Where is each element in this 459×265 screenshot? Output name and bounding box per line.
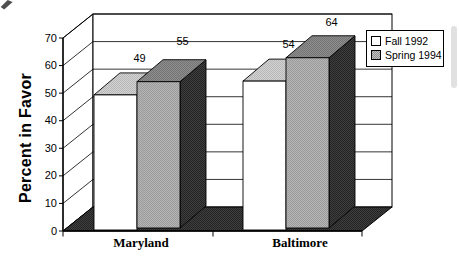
y-axis-title: Percent in Favor [17,48,39,228]
data-label-bar-spring-1994-maryland: 55 [176,35,188,47]
data-label-bar-fall-1992-maryland: 49 [133,52,145,64]
legend-item-fall-1992: Fall 1992 [371,34,439,48]
y-tick-label-30: 30 [45,142,57,154]
bar-spring-1994-maryland-side [180,60,206,228]
category-label-baltimore: Baltimore [272,235,327,251]
data-label-bar-fall-1992-baltimore: 54 [282,38,294,50]
scan-artifact-right-edge [451,26,457,88]
legend-swatch-fall-1992 [371,36,381,46]
y-tick-label-40: 40 [45,114,57,126]
legend-label-spring-1994: Spring 1994 [385,48,442,62]
bar-fall-1992-maryland-front [94,95,137,230]
y-tick-label-0: 0 [51,225,57,237]
y-tick-label-50: 50 [45,87,57,99]
category-label-maryland: Maryland [113,235,169,251]
bar-spring-1994-baltimore-front [286,58,329,228]
legend-swatch-spring-1994 [371,50,381,60]
legend-item-spring-1994: Spring 1994 [371,48,439,62]
left-wall [63,14,93,231]
legend: Fall 1992 Spring 1994 [366,30,444,67]
legend-label-fall-1992: Fall 1992 [385,34,428,48]
y-tick-label-20: 20 [45,169,57,181]
bar-spring-1994-maryland-front [137,82,180,228]
y-tick-label-60: 60 [45,59,57,71]
y-tick-label-70: 70 [45,32,57,44]
chart-figure: 01020304050607049555464 Percent in Favor… [0,0,459,265]
bar-fall-1992-baltimore-front [243,81,286,230]
y-tick-label-10: 10 [45,197,57,209]
bar-spring-1994-baltimore-side [329,36,355,228]
data-label-bar-spring-1994-baltimore: 64 [325,16,337,28]
